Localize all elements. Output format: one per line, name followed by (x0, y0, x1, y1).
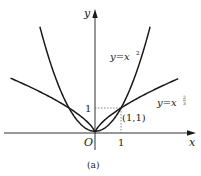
origin-label: O (84, 136, 93, 149)
parabola-label: y=x 2 (109, 50, 140, 62)
svg-text:2: 2 (183, 95, 186, 100)
x-axis-arrow-icon (187, 130, 196, 135)
figure-caption: (a) (87, 160, 99, 170)
curve-y-equals-x-two-thirds (11, 78, 179, 131)
svg-text:y=x: y=x (109, 51, 130, 62)
power-function-graph: y x O 1 1 (1,1) y=x 2 y=x 2 3 (a) (0, 0, 201, 176)
y-tick-label-1: 1 (85, 103, 91, 114)
svg-text:2: 2 (136, 50, 140, 56)
point-label: (1,1) (122, 112, 146, 123)
y-axis-label: y (83, 7, 91, 20)
y-axis-arrow-icon (92, 9, 97, 18)
x-axis-label: x (189, 136, 196, 149)
power-curve-label: y=x 2 3 (156, 95, 186, 108)
svg-text:y=x: y=x (156, 97, 177, 108)
svg-text:3: 3 (183, 101, 186, 106)
x-tick-label-1: 1 (118, 137, 124, 148)
